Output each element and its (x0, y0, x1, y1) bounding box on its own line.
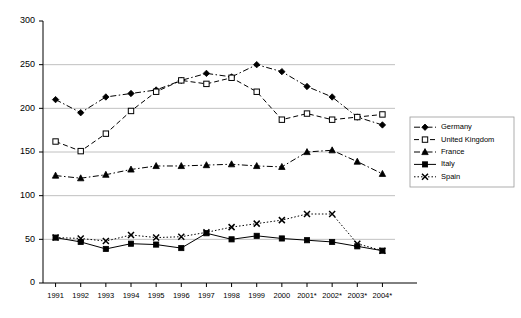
open-square-marker (229, 75, 234, 80)
x-tick-label: 1998 (223, 291, 240, 300)
diamond-marker (128, 90, 134, 96)
open-square-marker (279, 117, 284, 122)
open-square-marker (329, 117, 334, 122)
filled-square-marker (422, 162, 427, 167)
triangle-marker (379, 170, 385, 176)
open-square-marker (103, 131, 108, 136)
filled-square-marker (103, 246, 108, 251)
series-layer (52, 61, 385, 253)
x-tick-label: 2003* (347, 291, 367, 300)
legend-label: Italy (441, 159, 455, 168)
diamond-marker (379, 122, 385, 128)
legend-label: United Kingdom (441, 135, 494, 144)
x-tick-label: 1994 (123, 291, 140, 300)
x-tick-label: 2004* (373, 291, 393, 300)
cross-marker (254, 221, 260, 227)
series-germany (52, 61, 385, 128)
series-spain (53, 211, 386, 254)
y-tick-label: 250 (20, 59, 35, 69)
y-tick-label: 150 (20, 146, 35, 156)
x-tick-label: 1993 (98, 291, 115, 300)
open-square-marker (53, 139, 58, 144)
triangle-marker (329, 147, 335, 153)
open-square-marker (78, 148, 83, 153)
x-tick-label: 2002* (322, 291, 342, 300)
x-tick-label: 1992 (72, 291, 89, 300)
series-italy (53, 231, 385, 254)
triangle-marker (228, 161, 234, 167)
x-tick-label: 1991 (47, 291, 64, 300)
filled-square-marker (279, 236, 284, 241)
cross-marker (279, 217, 285, 223)
x-tick-label: 1995 (148, 291, 165, 300)
open-square-marker (128, 108, 133, 113)
open-square-marker (380, 112, 385, 117)
series-united-kingdom (53, 75, 385, 154)
triangle-marker (52, 172, 58, 178)
x-tick-label: 2001* (297, 291, 317, 300)
filled-square-marker (330, 239, 335, 244)
filled-square-marker (128, 241, 133, 246)
x-tick-label: 1996 (173, 291, 190, 300)
grid-layer (43, 65, 395, 240)
open-square-marker (254, 89, 259, 94)
legend-label: France (441, 147, 464, 156)
open-square-marker (304, 111, 309, 116)
filled-square-marker (254, 233, 259, 238)
y-tick-label: 300 (20, 15, 35, 25)
diamond-marker (52, 96, 58, 102)
diamond-marker (203, 70, 209, 76)
x-tick-label: 1999 (248, 291, 265, 300)
x-tick-label: 2000 (274, 291, 291, 300)
y-tick-label: 50 (25, 234, 35, 244)
x-tick-label: 1997 (198, 291, 215, 300)
filled-square-marker (154, 242, 159, 247)
filled-square-marker (304, 238, 309, 243)
legend-label: Germany (441, 122, 472, 131)
open-square-marker (355, 114, 360, 119)
triangle-marker (354, 158, 360, 164)
cross-marker (178, 234, 184, 240)
line-chart: 050100150200250300 199119921993199419951… (0, 0, 521, 318)
y-tick-label: 100 (20, 190, 35, 200)
filled-square-marker (229, 237, 234, 242)
open-square-marker (204, 81, 209, 86)
open-square-marker (179, 78, 184, 83)
y-tick-label: 0 (30, 277, 35, 287)
filled-square-marker (179, 245, 184, 250)
diamond-marker (78, 110, 84, 116)
open-square-marker (422, 137, 427, 142)
series-line (56, 214, 383, 251)
chart-legend: GermanyUnited KingdomFranceItalySpain (410, 117, 514, 187)
chart-canvas: 050100150200250300 199119921993199419951… (0, 0, 521, 318)
diamond-marker (304, 83, 310, 89)
series-line (56, 78, 383, 151)
diamond-marker (279, 68, 285, 74)
y-axis-tick-labels: 050100150200250300 (20, 15, 35, 287)
x-axis-tick-labels: 1991199219931994199519961997199819992000… (47, 291, 392, 300)
diamond-marker (254, 61, 260, 67)
diamond-marker (103, 94, 109, 100)
open-square-marker (153, 89, 158, 94)
legend-label: Spain (441, 172, 460, 181)
y-tick-label: 200 (20, 103, 35, 113)
